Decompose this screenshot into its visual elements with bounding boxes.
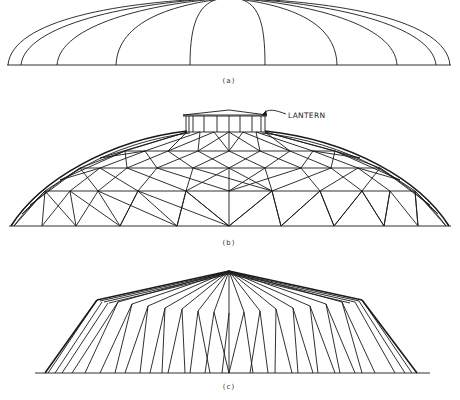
rib [21,0,229,65]
lantern [183,110,267,132]
panel-c-label: (c) [223,383,235,391]
rib [229,0,397,65]
panel-b-label: (b) [223,239,236,247]
rib [8,0,229,65]
rib [116,0,229,65]
rib [229,0,436,65]
lattice-edge [22,132,438,214]
panel-a-label: (a) [223,77,236,85]
panel-c-folded-plate-roof: (c) [35,271,430,391]
lantern-callout: LANTERN [288,111,325,120]
radial-fold [118,271,342,313]
rib [229,0,450,65]
lattice-row [45,168,415,191]
folded-plate [48,300,412,373]
rib [190,0,222,65]
dome-figure: (a) [0,0,460,400]
lattice-members [14,132,446,226]
roof-edge [45,300,417,373]
dome-profile-right [265,131,449,226]
dome-profile-inner [262,133,446,226]
lattice-row [80,151,380,168]
lantern-roof [183,110,267,115]
dome-profile-inner [14,133,190,226]
rib [57,0,229,65]
rib [229,0,337,65]
panel-a-ribbed-dome: (a) [7,0,451,85]
rib [236,0,265,65]
roof-ridge [97,271,362,300]
lattice-row [14,191,446,226]
roof-fold [100,272,359,303]
panel-b-lattice-dome: LANTERN (b) [9,110,451,247]
